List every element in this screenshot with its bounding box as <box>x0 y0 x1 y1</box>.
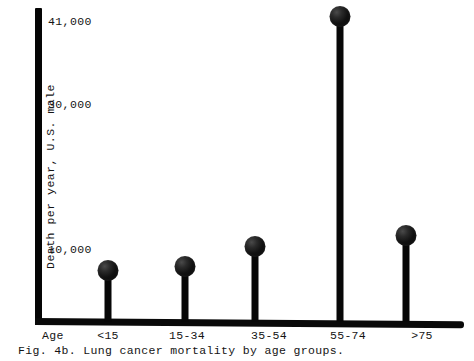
x-tick-label-over-75: >75 <box>411 330 433 342</box>
x-tick-label-under-15: <15 <box>97 330 119 342</box>
figure-caption: Fig. 4b. Lung cancer mortality by age gr… <box>18 344 344 357</box>
figure-lung-cancer-mortality: Death per year, U.S. male 41,000 30,000 … <box>0 0 474 361</box>
bar-35-54 <box>252 252 259 322</box>
bar-head-circle-icon <box>175 256 196 277</box>
bar-head-circle-icon <box>245 236 266 257</box>
bar-over-75 <box>403 241 410 322</box>
bar-55-74 <box>337 22 344 322</box>
x-axis-label-age: Age <box>42 330 64 342</box>
y-tick-label-41000: 41,000 <box>48 16 92 28</box>
y-axis-line <box>35 8 42 324</box>
chart-plot-area: Death per year, U.S. male 41,000 30,000 … <box>0 0 474 361</box>
x-axis-line <box>35 318 464 328</box>
bar-head-circle-icon <box>330 6 351 27</box>
bar-15-34 <box>182 272 189 322</box>
bar-head-circle-icon <box>396 225 417 246</box>
bar-under-15 <box>105 276 112 322</box>
bar-head-circle-icon <box>98 260 119 281</box>
y-tick-label-30000: 30,000 <box>48 99 92 111</box>
x-tick-label-35-54: 35-54 <box>251 330 287 342</box>
y-tick-label-10000: 10,000 <box>48 244 92 256</box>
x-tick-label-55-74: 55-74 <box>330 330 366 342</box>
x-tick-label-15-34: 15-34 <box>169 330 205 342</box>
